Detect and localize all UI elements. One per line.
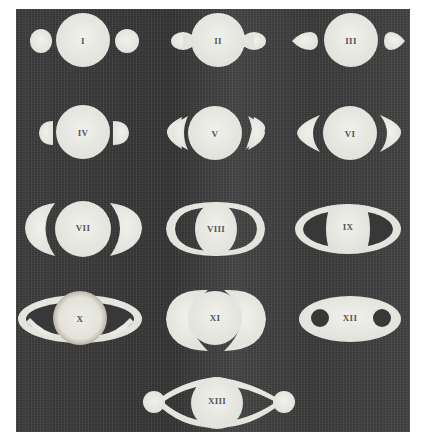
figure-label: VIII	[207, 224, 225, 234]
figure-13: XIII	[143, 377, 295, 429]
figure-label: XI	[210, 313, 221, 323]
saturn-figures: I II III IV V VI VII	[0, 0, 424, 446]
figure-5: V	[167, 106, 265, 160]
figure-8: VIII	[166, 202, 265, 256]
figure-label: XII	[343, 313, 358, 323]
figure-9: IX	[295, 204, 401, 254]
figure-10: X	[18, 291, 142, 345]
figure-1: I	[30, 13, 139, 67]
figure-2: II	[171, 13, 266, 67]
figure-label: VI	[345, 129, 356, 139]
figure-4: IV	[39, 105, 129, 159]
figure-12: XII	[299, 296, 401, 342]
figure-label: II	[214, 36, 222, 46]
figure-label: IV	[78, 128, 89, 138]
figure-label: V	[212, 129, 219, 139]
figure-7: VII	[25, 201, 142, 257]
figure-6: VI	[297, 106, 401, 160]
figure-label: XIII	[208, 396, 226, 406]
figure-label: I	[81, 36, 85, 46]
figure-label: X	[77, 314, 84, 324]
figure-label: IX	[343, 222, 354, 232]
figure-3: III	[292, 13, 405, 67]
figure-label: VII	[76, 223, 91, 233]
figure-11: XI	[166, 290, 266, 351]
figure-label: III	[345, 36, 357, 46]
